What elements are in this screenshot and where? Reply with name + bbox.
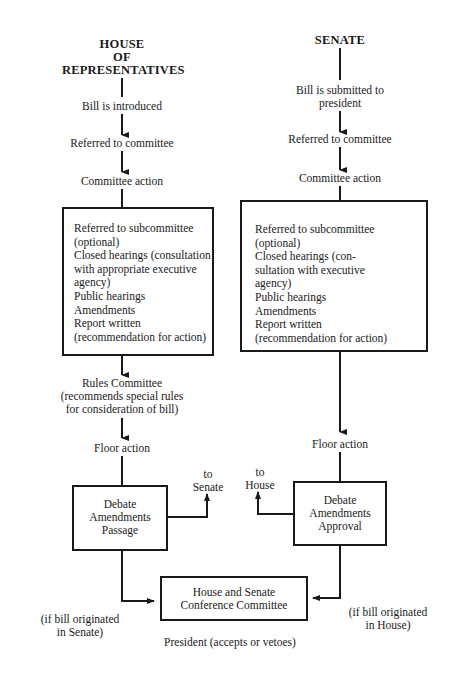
house-floor-action: Floor action [72,442,172,455]
house-debate-line: Passage [74,524,166,537]
senate-arrow-to-conference [313,545,340,598]
senate-to-house-label: to House [238,466,282,492]
house-step-referred: Referred to committee [47,137,197,150]
senate-step-referred: Referred to committee [265,133,415,146]
origin-note-line: in House) [333,619,443,632]
house-committee-item: Amendments [74,304,211,318]
senate-committee-item: Amendments [255,305,387,319]
senate-committee-item: Report written [255,318,387,332]
senate-debate-line: Amendments [295,507,385,520]
house-committee-item: Closed hearings (consultation [74,249,211,263]
house-committee-item: Public hearings [74,290,211,304]
house-committee-item: (recommendation for action) [74,331,211,345]
senate-step-line: president [280,97,400,110]
to-house-line: House [238,479,282,492]
to-senate-line: Senate [186,481,230,494]
rules-committee-line: Rules Committee [42,377,202,390]
senate-debate-line: Debate [295,494,385,507]
house-committee-item: Report written [74,317,211,331]
house-rules-committee: Rules Committee (recommends special rule… [42,377,202,416]
senate-floor-action: Floor action [290,438,390,451]
senate-committee-item: Referred to subcommittee [255,223,387,237]
conference-line: Conference Committee [162,599,306,612]
house-committee-item: agency) [74,276,211,290]
house-debate-line: Debate [74,498,166,511]
house-committee-item: (optional) [74,236,211,250]
senate-origin-note: (if bill originated in House) [333,606,443,632]
senate-debate-line: Approval [295,520,385,533]
house-to-senate-label: to Senate [186,468,230,494]
house-step-introduced: Bill is introduced [52,100,192,113]
origin-note-line: (if bill originated [333,606,443,619]
conference-committee-box: House and Senate Conference Committee [160,576,308,621]
senate-committee-item: sultation with executive [255,264,387,278]
house-title-line: REPRESENTATIVES [62,64,182,77]
to-house-line: to [238,466,282,479]
senate-debate-box: Debate Amendments Approval [293,481,387,546]
senate-title: SENATE [300,34,380,47]
house-debate-box: Debate Amendments Passage [72,485,168,551]
house-origin-note: (if bill originated in Senate) [25,613,135,639]
senate-step-committee-action: Committee action [270,172,410,185]
senate-committee-item: Public hearings [255,291,387,305]
house-arrow-to-senate [167,494,207,517]
origin-note-line: (if bill originated [25,613,135,626]
senate-committee-item: (recommendation for action) [255,332,387,346]
rules-committee-line: (recommends special rules [42,390,202,403]
senate-arrow-to-house [258,492,293,514]
house-title: HOUSE OF REPRESENTATIVES [62,38,182,77]
conference-line: House and Senate [162,586,306,599]
senate-step-submitted: Bill is submitted to president [280,84,400,110]
house-step-committee-action: Committee action [52,175,192,188]
rules-committee-line: for consideration of bill) [42,403,202,416]
senate-step-line: Bill is submitted to [280,84,400,97]
house-committee-item: Referred to subcommittee [74,222,211,236]
house-arrow-to-conference [122,550,154,601]
senate-committee-item: agency) [255,277,387,291]
to-senate-line: to [186,468,230,481]
president-final-step: President (accepts or vetoes) [140,636,320,649]
house-committee-item: with appropriate executive [74,263,211,277]
senate-committee-item: Closed hearings (con- [255,250,387,264]
senate-committee-item: (optional) [255,237,387,251]
house-debate-line: Amendments [74,511,166,524]
house-committee-box: Referred to subcommittee (optional) Clos… [62,207,214,356]
origin-note-line: in Senate) [25,626,135,639]
senate-committee-box: Referred to subcommittee (optional) Clos… [240,200,428,352]
